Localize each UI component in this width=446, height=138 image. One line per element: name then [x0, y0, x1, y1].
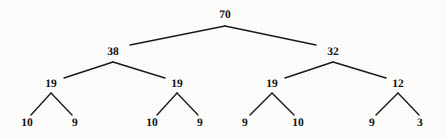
binary-tree-figure: 7038321919191210910991093 — [0, 0, 446, 138]
tree-node: 19 — [45, 79, 57, 91]
tree-edge — [333, 62, 386, 78]
tree-leaf-node: 9 — [72, 118, 78, 130]
tree-node: 38 — [107, 47, 119, 59]
tree-edge — [130, 26, 225, 45]
tree-node: 19 — [266, 79, 278, 91]
tree-edge — [113, 62, 165, 78]
tree-edge — [51, 93, 72, 115]
tree-edge — [272, 93, 294, 115]
tree-leaf-node: 9 — [197, 118, 203, 130]
tree-leaf-node: 9 — [369, 118, 375, 130]
tree-node: 32 — [327, 47, 339, 59]
tree-edge — [64, 62, 113, 78]
tree-edge — [31, 93, 51, 115]
tree-edge — [225, 26, 316, 45]
tree-edge — [398, 93, 419, 115]
tree-leaf-node: 10 — [292, 118, 304, 130]
tree-edge — [250, 93, 272, 115]
tree-edge — [157, 93, 177, 115]
tree-leaf-node: 10 — [146, 118, 158, 130]
tree-leaf-node: 3 — [417, 118, 423, 130]
tree-leaf-node: 9 — [242, 118, 248, 130]
tree-edge — [285, 62, 333, 78]
tree-node: 12 — [392, 79, 404, 91]
tree-node: 70 — [219, 10, 231, 22]
tree-edge — [177, 93, 198, 115]
edge-group — [31, 26, 419, 115]
tree-leaf-node: 10 — [21, 118, 33, 130]
tree-edge — [376, 93, 398, 115]
tree-node: 19 — [171, 79, 183, 91]
